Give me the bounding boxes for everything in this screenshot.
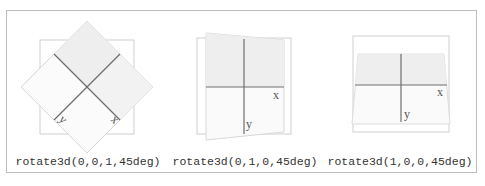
x-axis-label: x <box>273 88 279 102</box>
caption: rotate3d(0,0,1,45deg) <box>8 155 168 168</box>
caption: rotate3d(1,0,0,45deg) <box>320 155 480 168</box>
y-axis-label: y <box>246 117 252 131</box>
y-axis-label: y <box>404 107 410 121</box>
panel-rotate-x: x y rotate3d(1,0,0,45deg) <box>320 0 480 186</box>
x-axis-label: x <box>437 85 443 99</box>
panel-rotate-y: x y rotate3d(0,1,0,45deg) <box>165 0 325 186</box>
panel-rotate-z: x y rotate3d(0,0,1,45deg) <box>8 0 168 186</box>
caption: rotate3d(0,1,0,45deg) <box>165 155 325 168</box>
rotated-square-upper-shade <box>206 33 284 87</box>
